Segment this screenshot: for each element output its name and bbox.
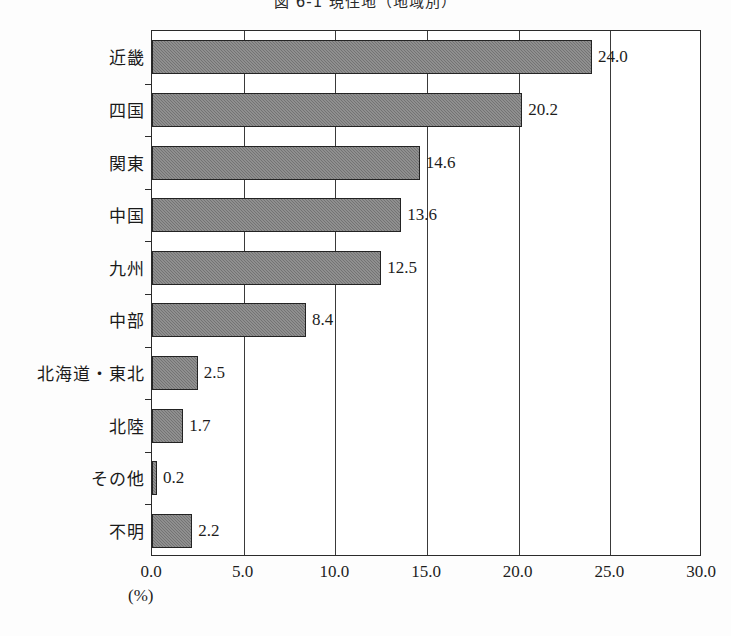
- bar-row: 14.6: [152, 146, 700, 180]
- x-tick-label: 10.0: [319, 562, 349, 582]
- category-axis-labels: 近畿四国関東中国九州中部北海道・東北北陸その他不明: [0, 30, 145, 556]
- bar-row: 2.5: [152, 356, 700, 390]
- x-tick-label: 0.0: [140, 562, 161, 582]
- axis-tick: [145, 189, 152, 190]
- axis-tick: [145, 84, 152, 85]
- chart-page: 図 6-1 現住地（地域別） 近畿四国関東中国九州中部北海道・東北北陸その他不明…: [0, 0, 731, 636]
- bar-value-label: 24.0: [598, 47, 628, 67]
- bar: [152, 514, 192, 548]
- value-axis-labels: 0.05.010.015.020.025.030.0: [0, 562, 731, 592]
- bar: [152, 40, 592, 74]
- category-label: 中国: [0, 202, 145, 227]
- bar-row: 20.2: [152, 93, 700, 127]
- bar-value-label: 13.6: [407, 205, 437, 225]
- category-label: 北陸: [0, 412, 145, 437]
- chart-title: 図 6-1 現住地（地域別）: [0, 0, 731, 11]
- bar-row: 1.7: [152, 409, 700, 443]
- chart-title-clipped: 図 6-1 現住地（地域別）: [0, 0, 731, 11]
- x-tick-label: 20.0: [503, 562, 533, 582]
- bar-value-label: 2.2: [198, 521, 219, 541]
- x-tick-label: 30.0: [686, 562, 716, 582]
- axis-tick: [145, 294, 152, 295]
- axis-tick: [145, 452, 152, 453]
- bar-value-label: 12.5: [387, 258, 417, 278]
- bar-value-label: 20.2: [528, 100, 558, 120]
- axis-unit-label: (%): [128, 586, 153, 606]
- bar: [152, 356, 198, 390]
- bar-value-label: 14.6: [426, 153, 456, 173]
- axis-tick: [145, 136, 152, 137]
- category-label: 中部: [0, 307, 145, 332]
- category-label: 九州: [0, 254, 145, 279]
- category-label: 関東: [0, 149, 145, 174]
- bar: [152, 198, 401, 232]
- plot-area: 24.020.214.613.612.58.42.51.70.22.2: [151, 30, 701, 556]
- bar-value-label: 8.4: [312, 310, 333, 330]
- bar-row: 13.6: [152, 198, 700, 232]
- category-label: 不明: [0, 517, 145, 542]
- bar: [152, 409, 183, 443]
- bar-row: 2.2: [152, 514, 700, 548]
- axis-tick: [145, 504, 152, 505]
- category-label: 近畿: [0, 44, 145, 69]
- axis-tick: [145, 399, 152, 400]
- bar-row: 12.5: [152, 251, 700, 285]
- bar-row: 24.0: [152, 40, 700, 74]
- axis-tick: [145, 347, 152, 348]
- category-label: 北海道・東北: [0, 359, 145, 384]
- bar: [152, 93, 522, 127]
- x-tick-label: 25.0: [594, 562, 624, 582]
- x-tick-label: 5.0: [232, 562, 253, 582]
- x-tick-label: 15.0: [411, 562, 441, 582]
- bar: [152, 461, 157, 495]
- category-label: 四国: [0, 96, 145, 121]
- bar-value-label: 0.2: [163, 468, 184, 488]
- axis-tick: [145, 241, 152, 242]
- bar-value-label: 2.5: [204, 363, 225, 383]
- bar-row: 8.4: [152, 303, 700, 337]
- bar-value-label: 1.7: [189, 416, 210, 436]
- category-label: その他: [0, 465, 145, 490]
- bar-row: 0.2: [152, 461, 700, 495]
- bar: [152, 251, 381, 285]
- bar: [152, 303, 306, 337]
- bar: [152, 146, 420, 180]
